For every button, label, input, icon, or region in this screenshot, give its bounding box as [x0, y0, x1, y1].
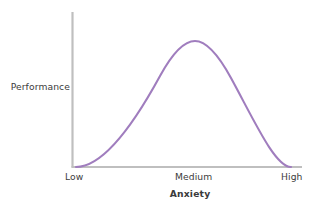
x-tick-label-low: Low	[65, 172, 83, 181]
x-axis-label: Anxiety	[140, 189, 240, 198]
x-tick-label-high: High	[281, 172, 303, 181]
x-tick-label-medium: Medium	[175, 172, 212, 181]
yerkes-dodson-chart: Performance Low Medium High Anxiety	[0, 0, 315, 209]
performance-curve	[76, 41, 291, 167]
chart-plot-area	[0, 0, 315, 209]
y-axis-label: Performance	[8, 82, 70, 91]
